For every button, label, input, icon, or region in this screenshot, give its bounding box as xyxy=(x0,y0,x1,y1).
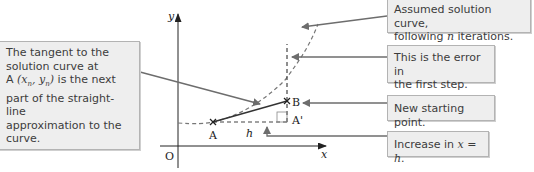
tangent-text-fragment: A xyxy=(6,73,17,86)
tangent-text-line: part of the straight-line xyxy=(6,92,133,119)
tangent-text-fragment: is the next xyxy=(54,73,116,86)
new-point-text: New starting point. xyxy=(394,102,488,129)
tangent-text-line: approximation to the xyxy=(6,119,133,133)
tangent-annotation-box: The tangent to the solution curve at A (… xyxy=(0,41,140,150)
point-A-prime-label: A' xyxy=(291,114,303,127)
increase-text-fragment: Increase in xyxy=(394,138,458,151)
increase-annotation-arrow xyxy=(267,127,387,136)
error-text-line: This is the error in xyxy=(394,51,488,78)
curve-annotation-box: Assumed solution curve, following n iter… xyxy=(387,0,531,33)
tangent-text-line: A (xn, yn) is the next xyxy=(6,73,133,92)
step-h-label: h xyxy=(246,127,253,140)
tangent-text-line: solution curve at xyxy=(6,60,133,74)
increase-text-fragment: . xyxy=(401,152,405,165)
curve-text-fragment: iterations. xyxy=(454,30,513,43)
curve-annotation-arrow xyxy=(302,16,387,27)
tangent-line xyxy=(213,101,287,122)
point-B-label: B xyxy=(292,96,300,109)
increase-text: Increase in x = h. xyxy=(394,138,482,165)
tangent-annotation-arrow xyxy=(140,72,260,104)
x-axis-label: x xyxy=(321,148,328,161)
curve-text-fragment: following xyxy=(394,30,447,43)
formula-part: (x xyxy=(17,73,28,86)
tangent-text-line: curve. xyxy=(6,132,133,146)
curve-text-line: Assumed solution curve, xyxy=(394,3,524,30)
new-point-annotation-box: New starting point. xyxy=(387,95,495,121)
point-formula: (xn, yn) xyxy=(17,73,54,86)
formula-part: , y xyxy=(32,73,45,86)
iteration-variable: n xyxy=(447,30,454,43)
y-axis-label: y xyxy=(167,10,175,23)
origin-label: O xyxy=(165,150,174,163)
error-annotation-box: This is the error in the first step. xyxy=(387,45,495,83)
curve-text-line: following n iterations. xyxy=(394,30,524,44)
tangent-text-line: The tangent to the xyxy=(6,46,133,60)
error-text-line: the first step. xyxy=(394,78,488,92)
increase-annotation-box: Increase in x = h. xyxy=(387,131,489,157)
point-A-label: A xyxy=(208,129,218,142)
right-angle-marker xyxy=(277,112,287,122)
